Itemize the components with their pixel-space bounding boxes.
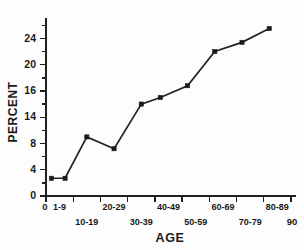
data-point-marker: [240, 40, 244, 44]
data-series-line: [51, 29, 269, 179]
data-point-marker: [49, 176, 53, 180]
data-point-marker: [267, 26, 271, 30]
y-tick-label: 16: [24, 84, 36, 96]
data-point-marker: [63, 176, 67, 180]
x-axis-end-label: 90: [287, 216, 298, 227]
y-tick-label: 14: [24, 110, 36, 122]
x-axis-group-label: 30-39: [130, 217, 153, 227]
x-axis-title: AGE: [156, 231, 185, 245]
x-axis-group-label: 80-89: [266, 202, 289, 212]
y-tick-label: 8: [30, 137, 36, 149]
y-axis-tick-group: 04814162024: [24, 25, 46, 201]
data-point-marker: [112, 147, 116, 151]
data-point-group: [49, 26, 271, 180]
x-axis-group-label: 70-79: [239, 217, 262, 227]
x-axis-group-label: 20-29: [103, 202, 126, 212]
x-axis-group-label: 60-69: [211, 202, 234, 212]
x-axis-group-label: 40-49: [157, 202, 180, 212]
data-point-marker: [185, 84, 189, 88]
x-axis-group-label: 10-19: [75, 217, 98, 227]
x-axis-end-label: 0: [42, 201, 47, 212]
data-point-marker: [158, 95, 162, 99]
line-chart-figure: PERCENT 04814162024 0901-910-1920-2930-3…: [0, 0, 304, 250]
y-tick-label: 24: [24, 32, 36, 44]
y-tick-label: 4: [30, 163, 36, 175]
x-axis-label-group: 0901-910-1920-2930-3940-4950-5960-6970-7…: [42, 201, 297, 227]
y-tick-label: 20: [24, 58, 36, 70]
data-point-marker: [85, 135, 89, 139]
y-tick-label: 0: [30, 189, 36, 201]
data-point-marker: [213, 49, 217, 53]
x-axis-group-label: 50-59: [184, 217, 207, 227]
x-axis-group-label: 1-9: [53, 202, 66, 212]
chart-canvas: PERCENT 04814162024 0901-910-1920-2930-3…: [0, 0, 304, 250]
y-axis-title: PERCENT: [6, 81, 20, 142]
data-point-marker: [139, 102, 143, 106]
